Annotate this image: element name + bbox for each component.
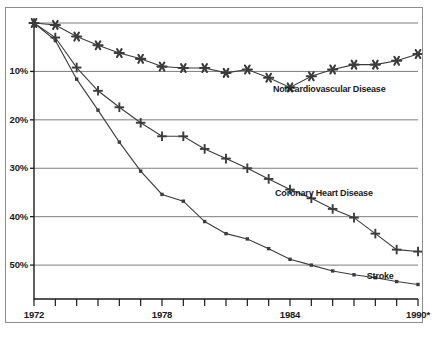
- x-tick-label: 1990*: [396, 309, 435, 320]
- square-marker: [310, 263, 313, 266]
- square-marker: [416, 283, 419, 286]
- square-marker: [203, 220, 206, 223]
- star-marker-core: [353, 63, 355, 65]
- series-stroke: [32, 21, 419, 286]
- line-chart-plot: [6, 8, 422, 322]
- square-marker: [96, 108, 99, 111]
- series-line: [34, 23, 418, 87]
- square-marker: [224, 232, 227, 235]
- star-marker-core: [246, 68, 248, 70]
- square-marker: [182, 199, 185, 202]
- series-line: [34, 23, 418, 284]
- square-marker: [32, 21, 35, 24]
- square-marker: [160, 193, 163, 196]
- square-marker: [246, 237, 249, 240]
- star-marker-core: [310, 75, 312, 77]
- square-marker: [352, 273, 355, 276]
- square-marker: [331, 269, 334, 272]
- star-marker-core: [395, 60, 397, 62]
- square-marker: [288, 258, 291, 261]
- y-tick-label: 20%: [6, 114, 28, 125]
- star-marker-core: [374, 63, 376, 65]
- series-coronary-heart-disease: [29, 18, 422, 256]
- star-marker-core: [267, 77, 269, 79]
- star-marker-core: [203, 67, 205, 69]
- square-marker: [54, 39, 57, 42]
- series-label-coronary-heart-disease: Coronary Heart Disease: [275, 188, 373, 198]
- square-marker: [395, 280, 398, 283]
- star-marker-core: [182, 67, 184, 69]
- star-marker-core: [118, 52, 120, 54]
- star-marker-core: [54, 24, 56, 26]
- star-marker-core: [417, 53, 419, 55]
- square-marker: [139, 169, 142, 172]
- y-tick-label: 10%: [6, 65, 28, 76]
- star-marker-core: [225, 72, 227, 74]
- x-tick-label: 1972: [12, 309, 56, 320]
- star-marker-core: [331, 68, 333, 70]
- y-tick-label: 40%: [6, 211, 28, 222]
- star-marker-core: [161, 65, 163, 67]
- star-marker-core: [97, 44, 99, 46]
- square-marker: [267, 247, 270, 250]
- y-tick-label: 50%: [6, 259, 28, 270]
- square-marker: [75, 77, 78, 80]
- square-marker: [118, 140, 121, 143]
- x-tick-label: 1984: [268, 309, 312, 320]
- series-label-noncardiovascular-disease: Noncardiovascular Disease: [273, 84, 386, 94]
- x-tick-label: 1978: [140, 309, 184, 320]
- y-tick-label: 30%: [6, 162, 28, 173]
- star-marker-core: [75, 35, 77, 37]
- series-label-stroke: Stroke: [367, 271, 394, 281]
- series-line: [34, 23, 418, 252]
- star-marker-core: [139, 58, 141, 60]
- figure-frame: 10%20%30%40%50%1972197819841990*Noncardi…: [5, 7, 423, 323]
